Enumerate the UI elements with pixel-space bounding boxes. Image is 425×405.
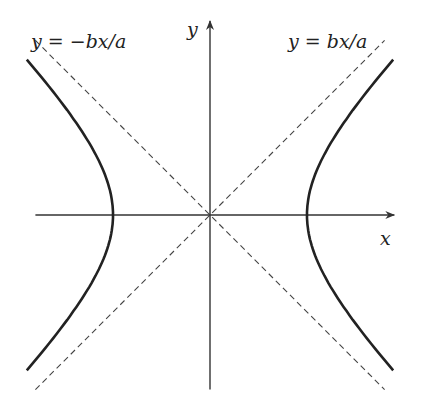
asymptote-negative-label: y = −bx/a xyxy=(30,30,126,52)
x-axis-label: x xyxy=(380,227,391,249)
asymptote-positive-label: y = bx/a xyxy=(287,30,367,52)
hyperbola-diagram: y = −bx/a y = bx/a y x xyxy=(0,0,425,405)
y-axis-label: y xyxy=(186,18,198,40)
